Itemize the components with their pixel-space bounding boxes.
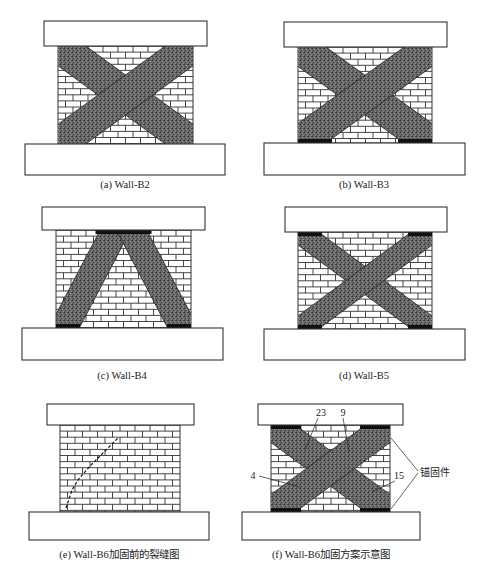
panel-c: (c) Wall-B4 bbox=[22, 207, 223, 382]
anchor-bottom-left bbox=[56, 324, 80, 328]
anchor-top-right bbox=[408, 232, 432, 236]
anchor-bottom-right bbox=[398, 139, 432, 143]
top-loading-beam bbox=[284, 22, 447, 47]
bottom-foundation-beam bbox=[25, 144, 225, 175]
callout-9: 9 bbox=[341, 407, 346, 418]
callout-15: 15 bbox=[394, 470, 404, 481]
anchor-bottom-right bbox=[360, 508, 390, 512]
bottom-foundation-beam bbox=[22, 328, 223, 360]
panel-caption: (f) Wall-B6加固方案示意图 bbox=[272, 548, 390, 561]
anchor-bottom-right bbox=[408, 325, 432, 329]
panel-b: (b) Wall-B3 bbox=[264, 22, 465, 191]
anchor-bottom-left bbox=[271, 508, 301, 512]
panel-f: (f) Wall-B6加固方案示意图239415锚固件 bbox=[242, 404, 450, 561]
top-loading-beam bbox=[258, 404, 403, 425]
panel-caption: (e) Wall-B6加固前的裂缝图 bbox=[59, 548, 178, 561]
callout-4: 4 bbox=[251, 470, 256, 481]
anchor-top-left bbox=[298, 232, 322, 236]
anchor-top-center bbox=[96, 230, 152, 234]
bottom-foundation-beam bbox=[29, 512, 209, 540]
anchor-leader-top bbox=[391, 438, 418, 471]
bottom-foundation-beam bbox=[264, 143, 465, 175]
panel-caption: (a) Wall-B2 bbox=[100, 179, 149, 191]
panel-a: (a) Wall-B2 bbox=[25, 21, 225, 191]
top-loading-beam bbox=[285, 207, 447, 232]
panel-d: (d) Wall-B5 bbox=[264, 207, 465, 382]
anchor-top-right bbox=[360, 425, 390, 429]
anchor-bottom-left bbox=[298, 139, 332, 143]
figure-canvas: (a) Wall-B2(b) Wall-B3(c) Wall-B4(d) Wal… bbox=[0, 0, 483, 572]
anchor-bottom-right bbox=[167, 324, 191, 328]
brick-pattern bbox=[60, 425, 180, 512]
top-loading-beam bbox=[44, 21, 207, 46]
anchor-label: 锚固件 bbox=[420, 467, 450, 478]
anchor-top-left bbox=[271, 425, 301, 429]
bottom-foundation-beam bbox=[242, 512, 420, 540]
panel-caption: (d) Wall-B5 bbox=[339, 370, 389, 382]
panel-caption: (b) Wall-B3 bbox=[339, 179, 389, 191]
top-loading-beam bbox=[42, 207, 205, 230]
callout-23: 23 bbox=[316, 407, 326, 418]
top-loading-beam bbox=[47, 404, 194, 425]
panel-e: (e) Wall-B6加固前的裂缝图 bbox=[29, 404, 209, 561]
anchor-bottom-left bbox=[298, 325, 322, 329]
bottom-foundation-beam bbox=[264, 329, 465, 360]
panel-caption: (c) Wall-B4 bbox=[97, 370, 147, 382]
